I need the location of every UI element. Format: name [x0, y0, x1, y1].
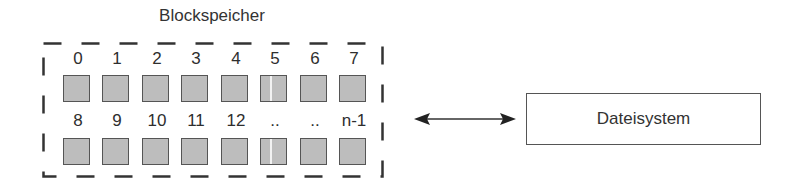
block-label: 8 — [58, 111, 98, 131]
storage-block — [181, 138, 208, 165]
storage-block — [260, 75, 287, 102]
storage-block — [221, 75, 248, 102]
block-label: .. — [295, 111, 335, 131]
file-system-label: Dateisystem — [597, 109, 691, 129]
storage-block — [142, 138, 169, 165]
storage-block — [339, 138, 366, 165]
block-label: 9 — [97, 111, 137, 131]
bidirectional-arrow-icon — [410, 108, 520, 130]
storage-block — [260, 138, 287, 165]
storage-block — [102, 75, 129, 102]
block-label: 10 — [137, 111, 177, 131]
block-label: 11 — [176, 111, 216, 131]
storage-block — [300, 138, 327, 165]
block-label: 1 — [97, 49, 137, 69]
block-label: 4 — [216, 49, 256, 69]
block-label: 3 — [176, 49, 216, 69]
storage-block — [142, 75, 169, 102]
block-label: 6 — [295, 49, 335, 69]
storage-block — [63, 75, 90, 102]
block-label: n-1 — [334, 111, 374, 131]
file-system-box: Dateisystem — [526, 93, 761, 145]
block-label: 12 — [216, 111, 256, 131]
storage-block — [102, 138, 129, 165]
block-label: .. — [255, 111, 295, 131]
storage-block — [63, 138, 90, 165]
block-label: 2 — [137, 49, 177, 69]
storage-block — [221, 138, 248, 165]
storage-block — [339, 75, 366, 102]
block-label: 5 — [255, 49, 295, 69]
block-storage-title: Blockspeicher — [112, 6, 312, 26]
block-label: 0 — [58, 49, 98, 69]
block-label: 7 — [334, 49, 374, 69]
storage-block — [300, 75, 327, 102]
storage-block — [181, 75, 208, 102]
